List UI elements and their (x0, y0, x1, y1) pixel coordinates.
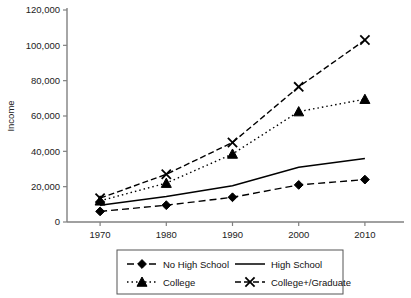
income-by-education-chart: 020,00040,00060,00080,000100,000120,000 … (0, 0, 411, 298)
legend-label: No High School (163, 259, 229, 270)
y-tick-label: 40,000 (31, 146, 60, 157)
x-tick-label: 2000 (288, 229, 309, 240)
y-tick-label: 100,000 (26, 40, 60, 51)
legend-label: College (163, 277, 195, 288)
legend-label: High School (271, 259, 322, 270)
x-tick-label: 1970 (90, 229, 111, 240)
series-college (95, 94, 370, 205)
y-tick-label: 20,000 (31, 181, 60, 192)
x-axis-tick-labels: 19701980199020002010 (90, 229, 376, 240)
x-tick-label: 1990 (222, 229, 243, 240)
data-point-marker (361, 175, 370, 184)
y-tick-label: 0 (55, 216, 60, 227)
series-college-graduate (96, 35, 370, 202)
y-axis-title: Income (5, 100, 16, 131)
data-point-marker (162, 201, 171, 210)
data-point-marker (161, 178, 171, 187)
legend-entry-no-high-school[interactable]: No High School (127, 259, 229, 270)
series-line (100, 40, 365, 198)
x-tick-label: 2010 (354, 229, 375, 240)
data-point-marker (360, 94, 370, 103)
chart-figure: 020,00040,00060,00080,000100,000120,000 … (0, 0, 411, 298)
data-point-marker (228, 149, 238, 158)
data-point-marker (294, 181, 303, 190)
data-point-marker (294, 107, 304, 116)
series-layer (95, 35, 370, 215)
legend-label: College+/Graduate (271, 277, 351, 288)
series-no-high-school (96, 175, 370, 216)
x-tick-label: 1980 (156, 229, 177, 240)
y-tick-label: 120,000 (26, 4, 60, 15)
y-axis-tick-labels: 020,00040,00060,00080,000100,000120,000 (26, 4, 60, 227)
data-point-marker (228, 193, 237, 202)
data-point-marker (96, 207, 105, 216)
y-tick-label: 60,000 (31, 110, 60, 121)
y-tick-label: 80,000 (31, 75, 60, 86)
